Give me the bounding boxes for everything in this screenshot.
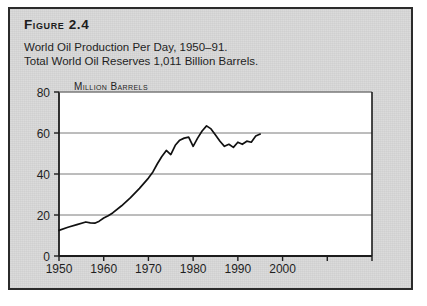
figure-panel: Figure 2.4 World Oil Production Per Day,… (8, 7, 413, 290)
y-axis-label-60: 60 (37, 127, 51, 141)
x-axis-label-1990: 1990 (225, 262, 252, 276)
x-axis-label-1980: 1980 (180, 262, 207, 276)
x-axis-label-group: 195019601970198019902000 (46, 262, 297, 276)
line-chart-svg: 020406080 195019601970198019902000 (10, 9, 413, 290)
x-axis-label-1950: 1950 (46, 262, 73, 276)
y-axis-label-40: 40 (37, 168, 51, 182)
x-axis-label-2000: 2000 (269, 262, 296, 276)
y-axis-label-group: 020406080 (37, 86, 51, 264)
x-axis-label-1970: 1970 (135, 262, 162, 276)
y-axis-label-80: 80 (37, 86, 51, 100)
x-axis-label-1960: 1960 (90, 262, 117, 276)
line-chart: 020406080 195019601970198019902000 (10, 9, 413, 290)
y-axis-label-20: 20 (37, 209, 51, 223)
figure-root: Figure 2.4 World Oil Production Per Day,… (0, 0, 427, 306)
